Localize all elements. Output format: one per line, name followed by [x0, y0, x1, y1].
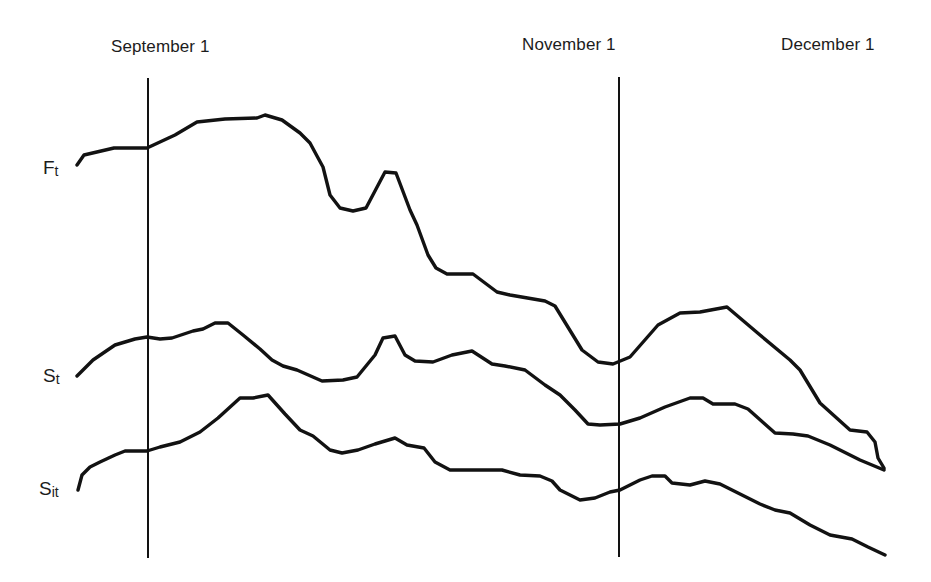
curve-ft	[77, 115, 884, 468]
curve-st	[77, 323, 884, 470]
plot-area	[0, 0, 931, 582]
chart-figure: September 1 November 1 December 1 Ft St …	[0, 0, 931, 582]
curve-sit	[78, 395, 885, 555]
